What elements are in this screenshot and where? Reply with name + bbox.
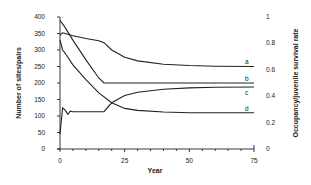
y-axis-label-right: Occupancy/juvenile survival rate: [292, 28, 300, 137]
curve-c: [60, 40, 254, 113]
svg-text:0: 0: [266, 145, 270, 152]
svg-text:50: 50: [186, 157, 194, 164]
svg-text:300: 300: [34, 46, 45, 53]
svg-text:0.8: 0.8: [266, 39, 275, 46]
line-chart: 0 50 100 150 200 250 300 350 400 Number …: [0, 0, 311, 185]
curve-label-c: c: [245, 89, 249, 96]
svg-text:400: 400: [34, 13, 45, 20]
svg-text:100: 100: [34, 112, 45, 119]
svg-text:0: 0: [41, 145, 45, 152]
svg-text:0.6: 0.6: [266, 66, 275, 73]
svg-text:250: 250: [34, 63, 45, 70]
svg-text:75: 75: [250, 157, 258, 164]
svg-text:25: 25: [121, 157, 129, 164]
curves: [60, 20, 254, 134]
x-axis-label: Year: [148, 167, 163, 174]
curve-label-b: b: [245, 75, 249, 82]
y-axis-label-left: Number of sites/pairs: [15, 47, 23, 119]
curve-label-a: a: [245, 58, 249, 65]
y-tick-labels-right: 0 0.2 0.4 0.6 0.8 1: [266, 13, 275, 152]
x-tick-labels: 0 25 50 75: [58, 157, 258, 164]
svg-text:0: 0: [58, 157, 62, 164]
svg-text:0.4: 0.4: [266, 92, 275, 99]
curve-label-d: d: [245, 105, 249, 112]
x-ticks: [60, 145, 254, 152]
y-tick-labels-left: 0 50 100 150 200 250 300 350 400: [34, 13, 45, 152]
svg-text:0.2: 0.2: [266, 119, 275, 126]
svg-text:350: 350: [34, 30, 45, 37]
curve-b: [60, 20, 254, 83]
curve-d: [60, 87, 254, 134]
svg-text:50: 50: [38, 129, 46, 136]
curve-a: [60, 33, 254, 67]
svg-text:1: 1: [266, 13, 270, 20]
svg-text:200: 200: [34, 79, 45, 86]
svg-text:150: 150: [34, 96, 45, 103]
